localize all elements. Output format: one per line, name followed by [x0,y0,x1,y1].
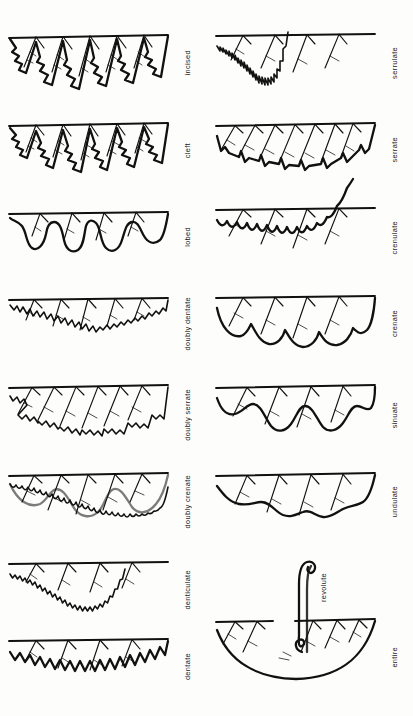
figure-denticulate: denticulate [0,552,206,628]
figure-cleft: cleft [0,110,206,192]
figure-serrulate: serrulate [207,22,413,104]
figure-caption-serrulate: serrulate [377,22,411,104]
figure-crenulate: crenulate [207,198,413,278]
figure-caption-doubly-crenate: doubly crenate [170,462,204,542]
figure-doubly-dentate: doubly dentate [0,286,206,362]
leaf-margin-art-doubly-serrate [6,374,172,456]
figure-undulate: undulate [207,460,413,544]
figure-doubly-crenate: doubly crenate [0,462,206,542]
figure-caption-doubly-serrate: doubly serrate [170,374,204,456]
figure-caption-denticulate: denticulate [170,552,204,628]
leaf-margin-art-cleft [6,110,172,192]
figure-caption-cleft: cleft [170,110,204,192]
figure-incised: incised [0,22,206,104]
figure-caption-crenate: crenate [377,284,411,364]
figure-serrate: serrate [207,110,413,190]
figure-crenate: crenate [207,284,413,364]
leaf-margin-art-crenate [213,284,379,364]
right-column: serrulate [207,0,413,716]
leaf-margin-art-doubly-dentate [6,286,172,362]
leaf-margin-art-serrate [213,110,379,190]
leaf-margin-art-dentate [6,628,172,706]
figure-caption-entire: entire [377,608,411,706]
leaf-margin-art-undulate [213,460,379,544]
leaf-margin-art-crenulate [213,198,379,278]
leaf-margin-art-sinuate [213,372,379,458]
figure-caption-revolute: revolute [319,558,359,618]
leaf-margin-art-incised [6,22,172,104]
figure-lobed: lobed [0,198,206,276]
figure-caption-crenulate: crenulate [377,198,411,278]
leaf-margin-plate: incised [0,0,413,716]
figure-caption-serrate: serrate [377,110,411,190]
leaf-margin-art-lobed [6,198,172,276]
leaf-margin-art-doubly-crenate [6,462,172,542]
figure-caption-lobed: lobed [170,198,204,276]
figure-caption-undulate: undulate [377,460,411,544]
figure-caption-dentate: dentate [170,628,204,706]
leaf-margin-art-denticulate [6,552,172,628]
figure-doubly-serrate: doubly serrate [0,374,206,456]
left-column: incised [0,0,206,716]
figure-caption-sinuate: sinuate [377,372,411,458]
figure-dentate: dentate [0,628,206,706]
figure-caption-doubly-dentate: doubly dentate [170,286,204,362]
figure-caption-incised: incised [170,22,204,104]
leaf-margin-art-serrulate [213,22,379,104]
figure-sinuate: sinuate [207,372,413,458]
